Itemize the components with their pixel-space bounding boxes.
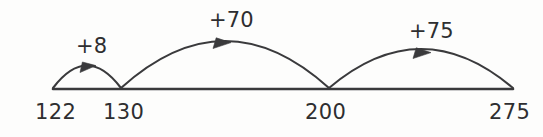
jump-arc-path: [121, 41, 329, 88]
jump-arc-plus-8: [53, 62, 121, 88]
jump-label-plus-8: +8: [76, 36, 107, 57]
tick-label-275: 275: [489, 102, 530, 123]
tick-label-122: 122: [35, 102, 76, 123]
number-line-canvas: [0, 0, 543, 137]
jump-label-plus-70: +70: [209, 10, 254, 31]
jump-arrowhead: [213, 38, 231, 49]
jump-label-plus-75: +75: [409, 21, 454, 42]
tick-label-200: 200: [305, 102, 346, 123]
tick-label-130: 130: [103, 102, 144, 123]
jump-arc-plus-70: [121, 38, 329, 88]
number-line-diagram: +8 +70 +75 122 130 200 275: [0, 0, 543, 137]
jump-arc-plus-75: [329, 48, 513, 88]
